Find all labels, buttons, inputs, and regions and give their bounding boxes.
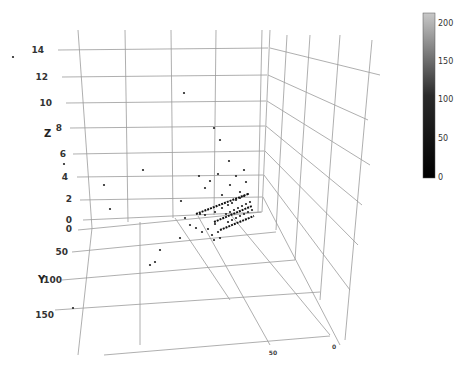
data-point <box>204 187 206 189</box>
colorbar-tick: 0 <box>438 173 443 182</box>
data-point <box>214 223 216 225</box>
data-point <box>249 201 251 203</box>
y-tick: 100 <box>43 275 62 285</box>
data-point <box>198 175 200 177</box>
data-point <box>235 217 237 219</box>
data-point <box>221 194 223 196</box>
colorbar-tick: 100 <box>438 95 453 104</box>
data-point <box>209 180 211 182</box>
data-point <box>239 191 241 193</box>
data-point <box>227 221 229 223</box>
data-point <box>251 209 253 211</box>
data-point <box>159 249 161 251</box>
colorbar-tick: 50 <box>438 134 448 143</box>
data-point <box>217 231 219 233</box>
y-axis: 0 50 Y 100 150 <box>35 224 72 320</box>
data-point <box>180 200 182 202</box>
y-tick: 0 <box>66 224 72 234</box>
data-point <box>227 204 229 206</box>
data-point <box>154 261 156 263</box>
data-point <box>213 127 215 129</box>
z-tick: 4 <box>62 172 68 182</box>
data-point <box>245 181 247 183</box>
data-point <box>247 211 249 213</box>
data-point <box>184 217 186 219</box>
z-tick: 6 <box>60 149 66 159</box>
data-point <box>189 224 191 226</box>
data-point <box>221 207 223 209</box>
data-point <box>229 211 231 213</box>
data-point <box>217 173 219 175</box>
data-point <box>237 207 239 209</box>
z-tick: 10 <box>39 98 52 108</box>
scatter-3d-plot[interactable]: Z 14 12 10 8 6 4 2 0 0 50 Y 100 150 50 0… <box>0 0 460 371</box>
data-point <box>179 237 181 239</box>
data-point <box>214 211 216 213</box>
data-point <box>235 175 237 177</box>
data-point <box>219 139 221 141</box>
data-point <box>225 213 227 215</box>
z-tick: 14 <box>31 45 44 55</box>
y-tick: 150 <box>35 310 54 320</box>
x-tick: 50 <box>269 349 277 356</box>
colorbar-tick: 200 <box>438 19 453 28</box>
data-point <box>233 209 235 211</box>
data-point <box>228 160 230 162</box>
data-point <box>149 264 151 266</box>
x-axis: 50 0 <box>269 343 336 356</box>
data-point <box>204 214 206 216</box>
right-wall-grid <box>263 35 380 345</box>
data-point <box>239 215 241 217</box>
data-point <box>142 169 144 171</box>
data-point <box>183 92 185 94</box>
data-points <box>12 56 254 309</box>
z-tick: 8 <box>56 123 62 133</box>
z-tick: 2 <box>66 194 72 204</box>
data-point <box>231 219 233 221</box>
y-tick: 50 <box>55 247 68 257</box>
data-point <box>72 307 74 309</box>
z-axis-label: Z <box>44 128 51 139</box>
data-point <box>243 169 245 171</box>
data-point <box>109 208 111 210</box>
floor-grid <box>55 212 330 355</box>
data-point <box>231 202 233 204</box>
z-axis: Z 14 12 10 8 6 4 2 0 <box>31 45 72 225</box>
data-point <box>195 227 197 229</box>
data-point <box>241 205 243 207</box>
data-point <box>12 56 14 58</box>
data-point <box>229 184 231 186</box>
data-point <box>201 231 203 233</box>
data-point <box>63 163 65 165</box>
data-point <box>219 237 221 239</box>
data-point <box>207 228 209 230</box>
data-point <box>103 184 105 186</box>
data-point <box>245 203 247 205</box>
colorbar-tick: 150 <box>438 57 453 66</box>
x-tick: 0 <box>332 343 336 350</box>
data-point <box>213 239 215 241</box>
colorbar: 200 150 100 50 0 <box>423 13 453 182</box>
data-point <box>211 234 213 236</box>
z-tick: 12 <box>35 72 48 82</box>
data-point <box>243 213 245 215</box>
